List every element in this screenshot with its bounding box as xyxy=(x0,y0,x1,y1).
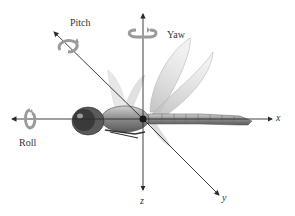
pitch-axis-negative xyxy=(54,32,143,119)
origin-point xyxy=(140,116,147,123)
dragonfly-axes-diagram xyxy=(0,0,295,216)
rotation-arrow-roll-icon xyxy=(26,109,35,128)
z-axis-label: z xyxy=(140,196,144,206)
yaw-label: Yaw xyxy=(167,30,185,40)
roll-label: Roll xyxy=(19,138,36,148)
x-axis-label: x xyxy=(276,113,280,123)
y-axis-positive xyxy=(143,119,219,195)
pitch-label: Pitch xyxy=(70,18,91,28)
y-axis-label: y xyxy=(222,193,226,203)
axes xyxy=(12,14,272,195)
